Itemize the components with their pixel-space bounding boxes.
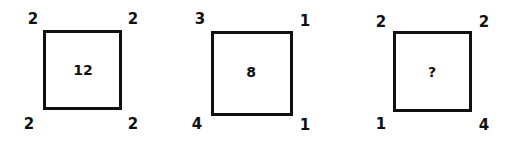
- corner-top-left: 3: [195, 12, 205, 27]
- corner-bottom-left: 1: [376, 117, 386, 132]
- corner-bottom-right: 1: [300, 118, 310, 133]
- corner-bottom-left: 2: [24, 117, 34, 132]
- corner-bottom-right: 2: [128, 117, 138, 132]
- puzzle-panel-1: 2 2 2 2 12: [0, 0, 172, 141]
- corner-top-left: 2: [376, 15, 386, 30]
- center-value: 8: [246, 65, 256, 79]
- corner-top-left: 2: [28, 12, 38, 27]
- center-value: 12: [73, 63, 92, 77]
- puzzle-panel-3: 2 2 1 4 ?: [344, 0, 516, 141]
- corner-top-right: 1: [300, 14, 310, 29]
- corner-top-right: 2: [479, 15, 489, 30]
- corner-bottom-left: 4: [192, 117, 202, 132]
- corner-top-right: 2: [128, 12, 138, 27]
- center-question-mark: ?: [428, 65, 436, 79]
- corner-bottom-right: 4: [479, 118, 489, 133]
- puzzle-panel-2: 3 1 4 1 8: [172, 0, 344, 141]
